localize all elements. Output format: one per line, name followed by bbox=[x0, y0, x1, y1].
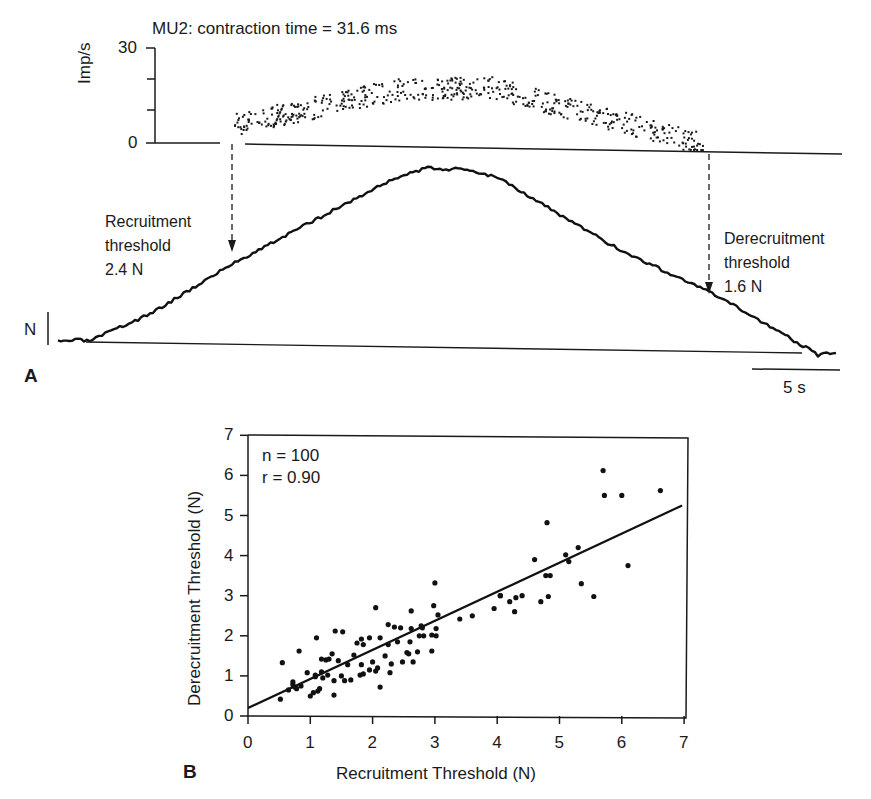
panel-b-letter: B bbox=[183, 761, 197, 783]
scatter-point bbox=[409, 608, 414, 613]
scatter-point bbox=[298, 683, 303, 688]
x-tick-label: 3 bbox=[430, 733, 439, 753]
y-tick-label: 2 bbox=[224, 626, 233, 646]
scatter-point bbox=[415, 649, 420, 654]
scatter-point bbox=[432, 580, 437, 585]
scatter-point bbox=[658, 488, 663, 493]
scatter-point bbox=[386, 622, 391, 627]
scatter-point bbox=[359, 662, 364, 667]
scatter-point bbox=[434, 626, 439, 631]
scatter-point bbox=[340, 629, 345, 634]
scatter-point bbox=[354, 640, 359, 645]
scatter-point bbox=[398, 625, 403, 630]
scatter-point bbox=[601, 468, 606, 473]
scatter-point bbox=[576, 545, 581, 550]
force-baseline bbox=[86, 342, 802, 353]
scatter-point bbox=[351, 652, 356, 657]
scatter-point bbox=[314, 635, 319, 640]
scatter-point bbox=[290, 682, 295, 687]
scatter-point bbox=[370, 659, 375, 664]
rate-axis bbox=[146, 48, 842, 154]
scatter-point bbox=[319, 657, 324, 662]
scatter-point bbox=[348, 677, 353, 682]
scatter-point bbox=[387, 670, 392, 675]
stat-n: n = 100 bbox=[262, 446, 319, 465]
scatter-point bbox=[331, 693, 336, 698]
scatter-point bbox=[319, 669, 324, 674]
scatter-point bbox=[492, 606, 497, 611]
scatter-point bbox=[431, 603, 436, 608]
scatter-point bbox=[378, 685, 383, 690]
x-tick-label: 7 bbox=[679, 733, 688, 753]
time-scale-bar bbox=[752, 369, 840, 370]
scatter-point bbox=[532, 557, 537, 562]
scatter-point bbox=[544, 520, 549, 525]
scatter-point bbox=[317, 686, 322, 691]
scatter-point bbox=[407, 639, 412, 644]
scatter-point bbox=[421, 633, 426, 638]
scatter-point bbox=[429, 632, 434, 637]
x-tick-label: 5 bbox=[555, 733, 564, 753]
scatter-point bbox=[411, 659, 416, 664]
scatter-point bbox=[286, 687, 291, 692]
scatter-point bbox=[326, 657, 331, 662]
scatter-point bbox=[330, 651, 335, 656]
x-axis-label: Recruitment Threshold (N) bbox=[336, 764, 536, 783]
scatter-point bbox=[625, 563, 630, 568]
scatter-point bbox=[498, 593, 503, 598]
scatter-point bbox=[389, 661, 394, 666]
scatter-point bbox=[305, 670, 310, 675]
scatter-point bbox=[333, 628, 338, 633]
y-axis-label: Derecruitment Threshold (N) bbox=[185, 491, 204, 706]
scatter-point bbox=[409, 626, 414, 631]
scatter-point bbox=[548, 573, 553, 578]
scatter-point bbox=[579, 581, 584, 586]
scatter-point bbox=[546, 594, 551, 599]
scatter-point bbox=[591, 594, 596, 599]
x-tick-label: 0 bbox=[243, 733, 252, 753]
stat-r: r = 0.90 bbox=[262, 468, 320, 487]
force-trace bbox=[58, 167, 836, 357]
scatter-point bbox=[278, 697, 283, 702]
x-tick-label: 2 bbox=[368, 733, 377, 753]
scatter-point bbox=[429, 648, 434, 653]
scatter-point bbox=[513, 595, 518, 600]
scatter-point bbox=[392, 624, 397, 629]
scatter-point bbox=[435, 612, 440, 617]
scatter-point bbox=[563, 552, 568, 557]
scatter-point bbox=[566, 559, 571, 564]
scatter-point bbox=[313, 673, 318, 678]
y-tick-label: 7 bbox=[224, 425, 233, 445]
scatter-point bbox=[367, 635, 372, 640]
scatter-point bbox=[395, 639, 400, 644]
figure-graphics bbox=[0, 0, 871, 799]
scatter-point bbox=[325, 673, 330, 678]
scatter-point bbox=[339, 673, 344, 678]
scatter-point bbox=[375, 665, 380, 670]
scatter-point bbox=[320, 675, 325, 680]
x-tick-label: 1 bbox=[305, 733, 314, 753]
scatter-point bbox=[457, 616, 462, 621]
scatter-point bbox=[520, 593, 525, 598]
y-tick-label: 4 bbox=[224, 546, 233, 566]
y-tick-label: 0 bbox=[224, 706, 233, 726]
scatter-point bbox=[361, 671, 366, 676]
scatter-point bbox=[470, 613, 475, 618]
scatter-point bbox=[367, 667, 372, 672]
scatter-point bbox=[342, 678, 347, 683]
scatter-point bbox=[280, 660, 285, 665]
scatter-point bbox=[336, 658, 341, 663]
y-tick-label: 5 bbox=[224, 506, 233, 526]
scatter-point bbox=[400, 659, 405, 664]
scatter-point bbox=[383, 653, 388, 658]
scatter-point bbox=[294, 686, 299, 691]
y-tick-label: 6 bbox=[224, 465, 233, 485]
recruitment-arrow-icon bbox=[228, 240, 236, 252]
x-tick-label: 6 bbox=[617, 733, 626, 753]
y-tick-label: 3 bbox=[224, 586, 233, 606]
scatter-point bbox=[386, 642, 391, 647]
scatter-point bbox=[359, 636, 364, 641]
scatter-point bbox=[361, 642, 366, 647]
discharge-rate-dots bbox=[234, 76, 704, 151]
scatter-point bbox=[378, 635, 383, 640]
